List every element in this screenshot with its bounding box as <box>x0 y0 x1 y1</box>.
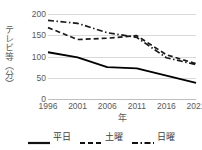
legend-item-日曜[interactable]: 日曜 <box>132 133 175 142</box>
legend-swatch-icon <box>132 133 154 141</box>
x-axis-tick-label: 2001 <box>68 101 87 111</box>
legend-item-平日[interactable]: 平日 <box>28 133 71 142</box>
legend-label: 平日 <box>53 133 71 142</box>
plot-area <box>48 14 196 99</box>
legend-label: 土曜 <box>105 133 123 142</box>
line-chart: テレビ等（分） 050100150200 1996200120062011201… <box>0 0 202 150</box>
x-axis-tick-label: 2021 <box>187 101 202 111</box>
series-line-平日 <box>48 52 196 83</box>
legend-item-土曜[interactable]: 土曜 <box>80 133 123 142</box>
y-axis-tick-labels: 050100150200 <box>18 0 46 110</box>
y-axis-tick-label: 100 <box>18 52 46 61</box>
x-axis-title: 年 <box>48 113 196 123</box>
x-axis-line <box>48 99 196 100</box>
x-axis-tick-label: 2016 <box>157 101 176 111</box>
x-axis-tick-label: 1996 <box>39 101 58 111</box>
legend-swatch-icon <box>80 133 102 141</box>
y-axis-tick-label: 50 <box>18 74 46 83</box>
series-line-土曜 <box>48 28 196 64</box>
y-axis-title: テレビ等（分） <box>2 16 16 96</box>
x-axis-tick-label: 2006 <box>98 101 117 111</box>
legend-label: 日曜 <box>157 133 175 142</box>
y-axis-tick-label: 150 <box>18 31 46 40</box>
series-lines <box>48 14 196 99</box>
x-axis-tick-label: 2011 <box>128 101 146 111</box>
series-line-日曜 <box>48 20 196 64</box>
y-axis-tick-label: 200 <box>18 10 46 19</box>
chart-legend: 平日土曜日曜 <box>0 128 202 146</box>
legend-swatch-icon <box>28 133 50 141</box>
x-axis-tick-labels: 199620012006201120162021 <box>48 101 196 113</box>
